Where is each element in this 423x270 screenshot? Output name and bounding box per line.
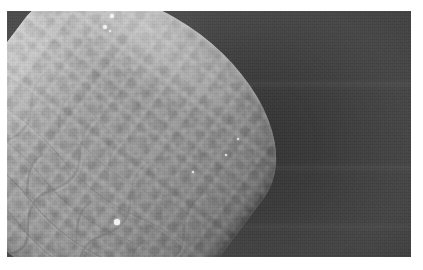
micrograph-plate	[7, 11, 411, 257]
debris-speck-rim-left	[114, 219, 119, 224]
cell-reticulation-overlay	[7, 11, 320, 257]
debris-speck-apex-1	[110, 14, 113, 17]
trailing-flank-shading	[7, 11, 320, 257]
cell-reticulation-svg	[7, 11, 320, 257]
apex-specular-sheen	[7, 11, 320, 257]
specimen-layer	[7, 11, 411, 257]
cuticle-mottle-texture	[7, 11, 320, 257]
illuminated-rim-highlight	[7, 11, 320, 257]
figure-root	[0, 0, 423, 270]
specimen-body	[7, 11, 320, 257]
